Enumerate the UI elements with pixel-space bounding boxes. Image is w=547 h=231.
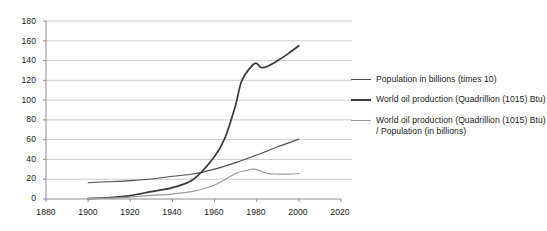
y-tick-label: 160 <box>4 36 36 46</box>
y-tick-label: 40 <box>4 154 36 164</box>
legend-entry: World oil production (Quadrillion (1015)… <box>351 115 547 137</box>
x-tick-label: 1900 <box>67 207 109 217</box>
x-tick-label: 2020 <box>319 207 361 217</box>
x-tick-label: 1940 <box>151 207 193 217</box>
chart-container: 180 160 140 120 100 80 60 40 20 0 1880 1… <box>0 0 547 231</box>
x-tick-label: 1960 <box>193 207 235 217</box>
x-tick-label: 1980 <box>235 207 277 217</box>
legend-label: World oil production (Quadrillion (1015)… <box>376 94 546 105</box>
y-tick-label: 180 <box>4 16 36 26</box>
legend-line-icon <box>351 79 371 80</box>
legend-label: Population in billions (times 10) <box>376 74 497 85</box>
x-tick-label: 1880 <box>25 207 67 217</box>
legend-line-icon <box>351 120 371 121</box>
legend-entry: World oil production (Quadrillion (1015)… <box>351 94 547 105</box>
chart-legend: Population in billions (times 10) World … <box>351 74 547 146</box>
y-tick-label: 0 <box>4 193 36 203</box>
y-tick-label: 100 <box>4 95 36 105</box>
legend-label: World oil production (Quadrillion (1015)… <box>376 115 547 137</box>
y-tick-label: 140 <box>4 55 36 65</box>
y-tick-label: 80 <box>4 114 36 124</box>
legend-entry: Population in billions (times 10) <box>351 74 547 85</box>
legend-line-icon <box>351 99 371 101</box>
y-tick-label: 60 <box>4 134 36 144</box>
x-tick-label: 2000 <box>277 207 319 217</box>
y-tick-label: 120 <box>4 75 36 85</box>
y-tick-label: 20 <box>4 173 36 183</box>
x-tick-label: 1920 <box>109 207 151 217</box>
